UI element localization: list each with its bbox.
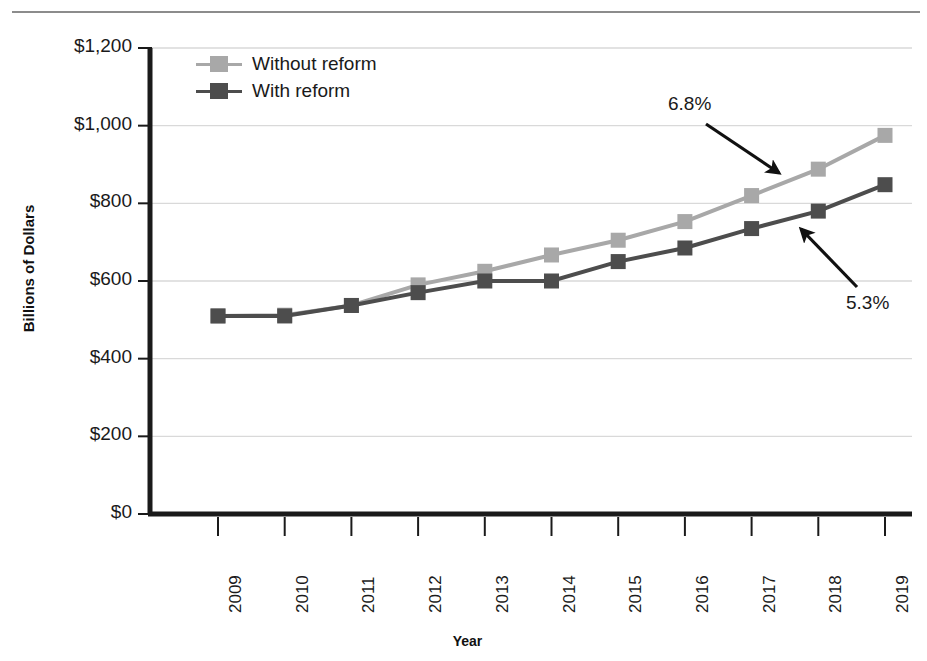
legend-label-without-reform: Without reform [252,54,377,73]
x-tick-label: 2015 [626,575,646,613]
data-point-marker [611,254,626,269]
annotation-growth-without-reform: 6.8% [668,93,711,115]
data-point-marker [811,204,826,219]
data-point-marker [811,162,826,177]
chart-figure: Billions of Dollars $0$200$400$600$800$1… [0,0,927,661]
arrow-to-without-reform [706,124,779,173]
legend-swatch-with-reform [196,83,242,99]
legend-marker-icon [210,83,228,99]
data-point-marker [744,188,759,203]
x-tick-label: 2012 [426,575,446,613]
series-line-without-reform [218,135,885,316]
x-axis-title: Year [0,633,927,649]
x-tick-label: 2013 [493,575,513,613]
plot-canvas [0,0,927,661]
y-tick-label: $200 [0,423,132,445]
x-axis-title-text: Year [453,633,483,649]
data-series-group [211,128,893,324]
x-tick-label: 2019 [893,575,913,613]
data-point-marker [344,298,359,313]
x-tick-marks-group [218,517,885,536]
legend-marker-icon [210,56,228,72]
data-point-marker [277,308,292,323]
annotation-growth-with-reform: 5.3% [846,292,889,314]
y-tick-label: $800 [0,190,132,212]
data-point-marker [544,274,559,289]
data-point-marker [677,240,692,255]
x-tick-label: 2017 [760,575,780,613]
y-tick-label: $1,200 [0,35,132,57]
gridlines-group [152,48,912,436]
legend-item-with-reform[interactable]: With reform [196,77,377,104]
y-tick-label: $0 [0,501,132,523]
x-tick-label: 2010 [293,575,313,613]
data-point-marker [677,214,692,229]
data-point-marker [411,285,426,300]
data-point-marker [211,308,226,323]
x-tick-label: 2014 [560,575,580,613]
arrow-to-with-reform [801,229,857,287]
legend-item-without-reform[interactable]: Without reform [196,50,377,77]
x-tick-label: 2009 [226,575,246,613]
data-point-marker [878,177,893,192]
y-tick-label: $1,000 [0,113,132,135]
data-point-marker [744,221,759,236]
x-tick-label: 2018 [826,575,846,613]
data-point-marker [611,233,626,248]
x-tick-label: 2011 [359,576,379,613]
y-tick-label: $600 [0,268,132,290]
x-tick-label: 2016 [693,575,713,613]
data-point-marker [477,274,492,289]
data-point-marker [544,247,559,262]
legend-swatch-without-reform [196,56,242,72]
data-point-marker [878,128,893,143]
chart-legend: Without reform With reform [196,50,377,104]
legend-label-with-reform: With reform [252,81,350,100]
y-tick-label: $400 [0,346,132,368]
